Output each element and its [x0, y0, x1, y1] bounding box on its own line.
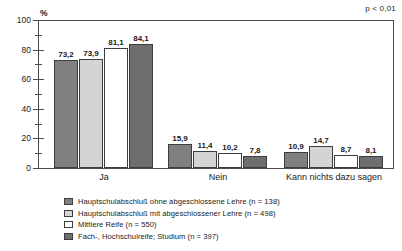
- bar: 14,7: [309, 146, 333, 168]
- legend-item: Hauptschulabschluß ohne abgeschlossene L…: [64, 196, 364, 207]
- bar-value-label: 8,1: [365, 146, 376, 155]
- bar-group: 73,273,981,184,1: [54, 20, 158, 168]
- bar: 73,2: [54, 60, 78, 168]
- y-axis-minor-tick: [35, 94, 42, 95]
- bar-value-label: 10,2: [222, 143, 238, 152]
- bar: 81,1: [104, 48, 128, 168]
- legend-label: Hauptschulabschluß ohne abgeschlossene L…: [78, 197, 280, 206]
- bar-value-label: 7,8: [249, 146, 260, 155]
- bar-group: 15,911,410,27,8: [168, 20, 272, 168]
- legend-item: Mittlere Reife (n = 550): [64, 219, 364, 230]
- bar: 10,2: [218, 153, 242, 168]
- y-axis-minor-tick: [35, 35, 42, 36]
- chart-legend: Hauptschulabschluß ohne abgeschlossene L…: [64, 196, 364, 242]
- bar-value-label: 73,2: [58, 50, 74, 59]
- bar: 8,7: [334, 155, 358, 168]
- bar: 73,9: [79, 59, 103, 168]
- bar-group: 10,914,78,78,1: [284, 20, 388, 168]
- bar-value-label: 84,1: [133, 34, 149, 43]
- bar-value-label: 81,1: [108, 38, 124, 47]
- legend-swatch: [64, 210, 73, 217]
- legend-swatch: [64, 221, 73, 228]
- bar-value-label: 10,9: [288, 142, 304, 151]
- x-axis-category-label: Kann nichts dazu sagen: [286, 172, 382, 182]
- y-axis-minor-tick: [35, 124, 42, 125]
- plot-right-border: [393, 20, 394, 168]
- y-axis-tick-label: 0: [26, 163, 31, 173]
- legend-item: Hauptschulabschluß mit abgeschlossener L…: [64, 208, 364, 219]
- y-axis-tick-label: 60: [22, 74, 31, 84]
- bar: 8,1: [359, 156, 383, 168]
- y-axis-tick-label: 80: [22, 45, 31, 55]
- legend-label: Mittlere Reife (n = 550): [78, 220, 157, 229]
- y-axis-unit-label: %: [40, 8, 48, 18]
- y-axis-tick: [33, 168, 44, 169]
- y-axis-tick: [33, 79, 44, 80]
- bar: 10,9: [284, 152, 308, 168]
- bar-value-label: 73,9: [83, 49, 99, 58]
- y-axis-minor-tick: [35, 64, 42, 65]
- bar-value-label: 8,7: [340, 145, 351, 154]
- x-axis-category-label: Ja: [99, 172, 109, 182]
- y-axis-tick: [33, 20, 44, 21]
- bar: 84,1: [129, 44, 153, 168]
- y-axis-tick: [33, 50, 44, 51]
- y-axis-tick: [33, 138, 44, 139]
- x-axis-line: [38, 168, 394, 169]
- legend-label: Hauptschulabschluß mit abgeschlossener L…: [78, 209, 276, 218]
- y-axis-tick-label: 100: [17, 15, 31, 25]
- bar: 15,9: [168, 144, 192, 168]
- y-axis-tick: [33, 109, 44, 110]
- bar-chart: p < 0,01 % 02040608010073,273,981,184,11…: [0, 0, 402, 251]
- legend-swatch: [64, 198, 73, 205]
- legend-swatch: [64, 233, 73, 240]
- legend-label: Fach-, Hochschulreife; Studium (n = 397): [78, 232, 219, 241]
- bar-value-label: 15,9: [172, 134, 188, 143]
- y-axis-minor-tick: [35, 153, 42, 154]
- bar-value-label: 14,7: [313, 136, 329, 145]
- bar-value-label: 11,4: [197, 141, 212, 150]
- significance-annotation: p < 0,01: [365, 4, 396, 13]
- y-axis-tick-label: 40: [22, 104, 31, 114]
- bar: 11,4: [193, 151, 217, 168]
- legend-item: Fach-, Hochschulreife; Studium (n = 397): [64, 231, 364, 242]
- y-axis-tick-label: 20: [22, 133, 31, 143]
- plot-area: 02040608010073,273,981,184,115,911,410,2…: [38, 20, 394, 168]
- bar: 7,8: [243, 156, 267, 168]
- x-axis-category-label: Nein: [209, 172, 228, 182]
